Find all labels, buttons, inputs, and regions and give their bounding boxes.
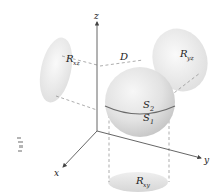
s2-main: S <box>143 99 150 110</box>
projection-rxz <box>34 35 77 106</box>
s1-sub: 1 <box>150 118 154 126</box>
rxz-sub: xz <box>73 59 80 66</box>
rxy-sub: xy <box>143 181 150 189</box>
sphere-shape <box>105 67 175 137</box>
x-axis <box>63 131 97 167</box>
solid-region-projections-diagram: z x y D S 2 S 1 R xz R yz R xy <box>0 0 215 195</box>
solid-region-d <box>105 67 175 137</box>
y-axis-label: y <box>203 155 210 165</box>
s1-main: S <box>143 112 150 123</box>
x-axis-label: x <box>54 168 59 178</box>
region-d-label: D <box>119 51 128 62</box>
ryz-sub: yz <box>186 54 194 62</box>
decorative-smudge <box>17 137 23 152</box>
z-axis-label: z <box>93 11 99 21</box>
rxz-region-shape <box>34 35 77 106</box>
